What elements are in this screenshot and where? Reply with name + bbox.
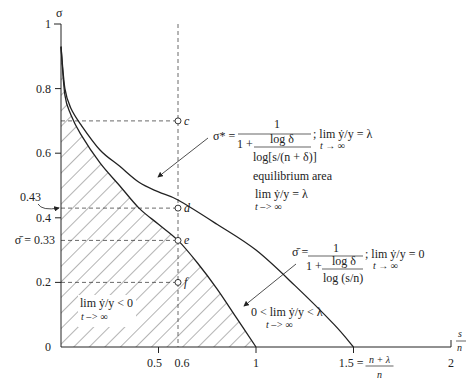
svg-text:; lim ẏ/y = λ: ; lim ẏ/y = λ	[313, 127, 372, 141]
hatched-region-label: lim ẏ/y < 0 t –> ∞	[78, 295, 136, 327]
svg-text:; lim ẏ/y = 0: ; lim ẏ/y = 0	[365, 247, 424, 261]
x-tick-label: 1.5 =	[339, 356, 364, 370]
y-axis-label: σ	[56, 6, 63, 20]
point-e	[175, 237, 181, 243]
x-tick-label: 1	[253, 356, 259, 370]
svg-text:t → ∞: t → ∞	[373, 260, 398, 271]
x-axis-label-num: s	[458, 328, 462, 339]
equilibrium-area-label: equilibrium area lim ẏ/y = λ t –> ∞	[253, 169, 333, 212]
y-tick-label: 0.4	[36, 211, 51, 225]
label-0-43: 0.43	[20, 190, 41, 204]
diagram-canvas: 00.20.40.60.81σ̄ = 0.330.50.611.5 =2n + …	[0, 0, 476, 386]
svg-text:log δ: log δ	[332, 254, 356, 268]
arrow-0-43	[38, 204, 59, 209]
x-tick-label: 0.6	[175, 356, 190, 370]
point-label-c: c	[184, 114, 190, 128]
middle-region-label: 0 < lim ẏ/y < λ t –> ∞	[251, 305, 323, 330]
svg-text:σ* =: σ* =	[213, 129, 235, 143]
y-tick-label: 0.6	[36, 146, 51, 160]
x-tick-fraction-den: n	[377, 369, 382, 380]
x-axis-label-den: n	[457, 342, 462, 353]
svg-text:t –> ∞: t –> ∞	[266, 319, 293, 330]
svg-text:σ̄ =: σ̄ =	[292, 245, 308, 259]
sigma-bar-pointer	[244, 264, 296, 306]
sigma-star-formula: σ* = 1 1 + log δ log[s/(n + δ)] ; lim ẏ/…	[213, 117, 372, 164]
svg-text:equilibrium area: equilibrium area	[253, 169, 333, 183]
y-tick-label: 0.8	[36, 82, 51, 96]
sigma-star-pointer	[158, 138, 208, 177]
svg-text:log (s/n): log (s/n)	[323, 271, 363, 285]
svg-text:0 < lim ẏ/y < λ: 0 < lim ẏ/y < λ	[251, 305, 323, 319]
point-label-d: d	[184, 201, 191, 215]
svg-text:1 +: 1 +	[306, 259, 322, 273]
svg-text:1: 1	[333, 241, 339, 255]
y-tick-label-sigma-bar: σ̄ = 0.33	[15, 233, 55, 247]
svg-text:t –> ∞: t –> ∞	[81, 311, 108, 322]
svg-text:1 +: 1 +	[237, 137, 253, 151]
y-tick-label: 0.2	[36, 275, 51, 289]
svg-text:1: 1	[274, 117, 280, 131]
y-tick-label: 1	[45, 17, 51, 31]
svg-text:lim ẏ/y = λ: lim ẏ/y = λ	[255, 187, 308, 201]
x-tick-fraction-num: n + λ	[369, 354, 391, 365]
svg-text:lim ẏ/y < 0: lim ẏ/y < 0	[80, 296, 133, 310]
point-d	[175, 205, 181, 211]
svg-text:t –> ∞: t –> ∞	[255, 201, 282, 212]
x-tick-label: 2	[448, 356, 454, 370]
svg-text:t → ∞: t → ∞	[320, 140, 345, 151]
point-c	[175, 118, 181, 124]
svg-text:log δ: log δ	[270, 132, 294, 146]
x-tick-label: 0.5	[147, 356, 162, 370]
svg-text:log[s/(n + δ)]: log[s/(n + δ)]	[253, 150, 317, 164]
sigma-bar-formula: σ̄ = 1 1 + log δ log (s/n) ; lim ẏ/y = 0…	[292, 241, 424, 285]
point-f	[175, 279, 181, 285]
y-tick-label: 0	[45, 340, 51, 354]
point-label-e: e	[184, 233, 190, 247]
